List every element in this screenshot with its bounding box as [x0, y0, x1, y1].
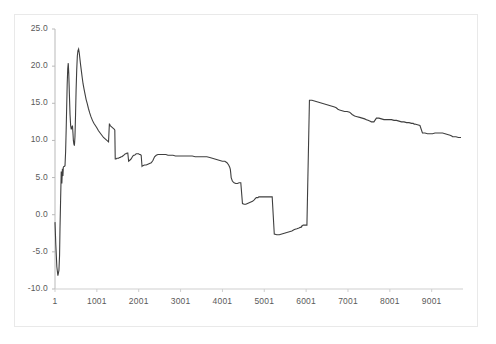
y-tick-label: -10.0 — [16, 283, 48, 293]
x-tick-label: 6001 — [286, 296, 326, 306]
x-tick-label: 3001 — [161, 296, 201, 306]
chart-frame: 25.020.015.010.05.00.0-5.0-10.0 11001200… — [14, 14, 478, 327]
x-tick-label: 4001 — [202, 296, 242, 306]
chart-container: 25.020.015.010.05.00.0-5.0-10.0 11001200… — [0, 0, 496, 344]
x-tick-label: 5001 — [244, 296, 284, 306]
data-series-group — [55, 49, 461, 276]
x-tick-label: 9001 — [412, 296, 452, 306]
y-tick-label: 0.0 — [16, 209, 48, 219]
x-tick-label: 1 — [35, 296, 75, 306]
x-tick-label: 7001 — [328, 296, 368, 306]
y-tick-label: -5.0 — [16, 246, 48, 256]
y-tick-label: 15.0 — [16, 97, 48, 107]
x-tick-label: 2001 — [119, 296, 159, 306]
data-series-line — [55, 49, 461, 276]
y-tick-label: 25.0 — [16, 23, 48, 33]
y-tick-label: 20.0 — [16, 60, 48, 70]
x-tick-label: 1001 — [77, 296, 117, 306]
x-tick-label: 8001 — [370, 296, 410, 306]
y-tick-label: 10.0 — [16, 134, 48, 144]
y-tick-label: 5.0 — [16, 172, 48, 182]
plot-area — [15, 15, 477, 326]
